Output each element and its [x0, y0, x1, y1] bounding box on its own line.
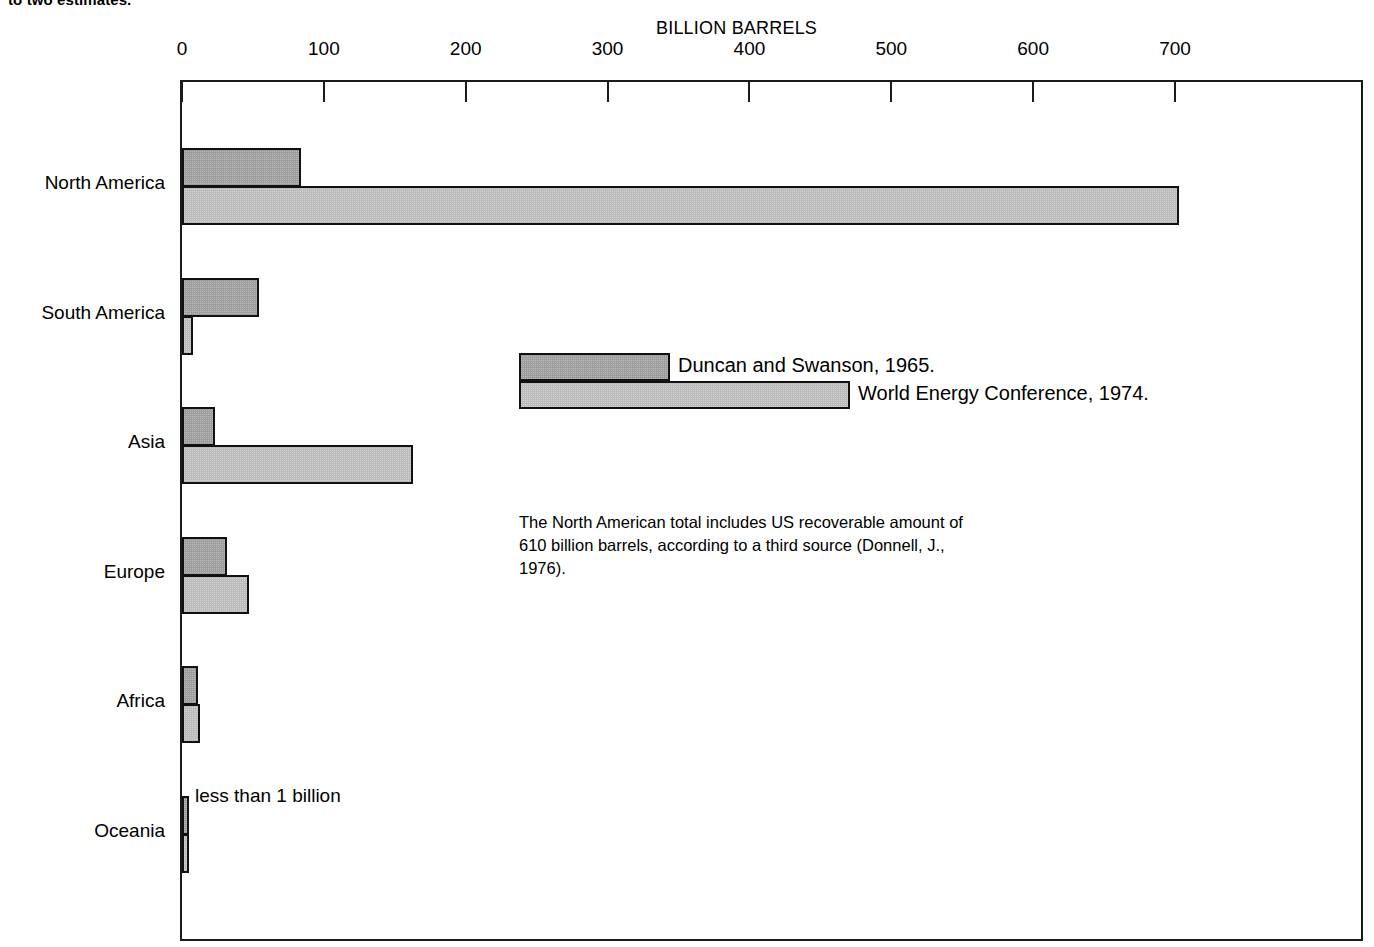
category-label-north-america: North America	[45, 172, 165, 194]
bar-north-america-series-0	[182, 148, 301, 187]
legend-label-series-0: Duncan and Swanson, 1965.	[678, 354, 935, 377]
x-tick-400	[748, 82, 750, 102]
x-tick-label-300: 300	[592, 38, 624, 60]
bar-oceania-series-1	[182, 834, 189, 873]
annotation-oceania-note: less than 1 billion	[195, 785, 341, 807]
category-label-asia: Asia	[128, 431, 165, 453]
axis-title: BILLION BARRELS	[656, 18, 817, 39]
x-tick-label-700: 700	[1159, 38, 1191, 60]
x-tick-500	[890, 82, 892, 102]
bar-europe-series-0	[182, 537, 227, 576]
category-label-africa: Africa	[116, 690, 165, 712]
legend-label-series-1: World Energy Conference, 1974.	[858, 382, 1149, 405]
x-tick-label-200: 200	[450, 38, 482, 60]
x-tick-label-0: 0	[177, 38, 188, 60]
x-tick-label-100: 100	[308, 38, 340, 60]
bar-south-america-series-0	[182, 278, 259, 317]
bar-asia-series-0	[182, 407, 215, 446]
category-label-oceania: Oceania	[94, 820, 165, 842]
x-tick-100	[323, 82, 325, 102]
x-tick-label-500: 500	[875, 38, 907, 60]
x-tick-200	[465, 82, 467, 102]
category-label-south-america: South America	[41, 302, 165, 324]
legend-swatch-series-0	[519, 353, 670, 381]
bar-asia-series-1	[182, 445, 413, 484]
bar-africa-series-0	[182, 666, 198, 705]
x-tick-300	[607, 82, 609, 102]
caption-fragment: to two estimates.	[8, 0, 131, 8]
bar-south-america-series-1	[182, 316, 193, 355]
bar-africa-series-1	[182, 704, 200, 743]
category-label-europe: Europe	[104, 561, 165, 583]
x-tick-label-600: 600	[1017, 38, 1049, 60]
plot-area: 0100200300400500600700 North AmericaSout…	[180, 80, 1363, 941]
x-tick-0	[181, 82, 183, 102]
x-tick-label-400: 400	[734, 38, 766, 60]
bar-europe-series-1	[182, 575, 249, 614]
x-tick-700	[1174, 82, 1176, 102]
annotation-north-america-footnote: The North American total includes US rec…	[519, 511, 989, 580]
bar-oceania-series-0	[182, 796, 189, 835]
bar-north-america-series-1	[182, 186, 1179, 225]
legend-swatch-series-1	[519, 381, 850, 409]
x-tick-600	[1032, 82, 1034, 102]
